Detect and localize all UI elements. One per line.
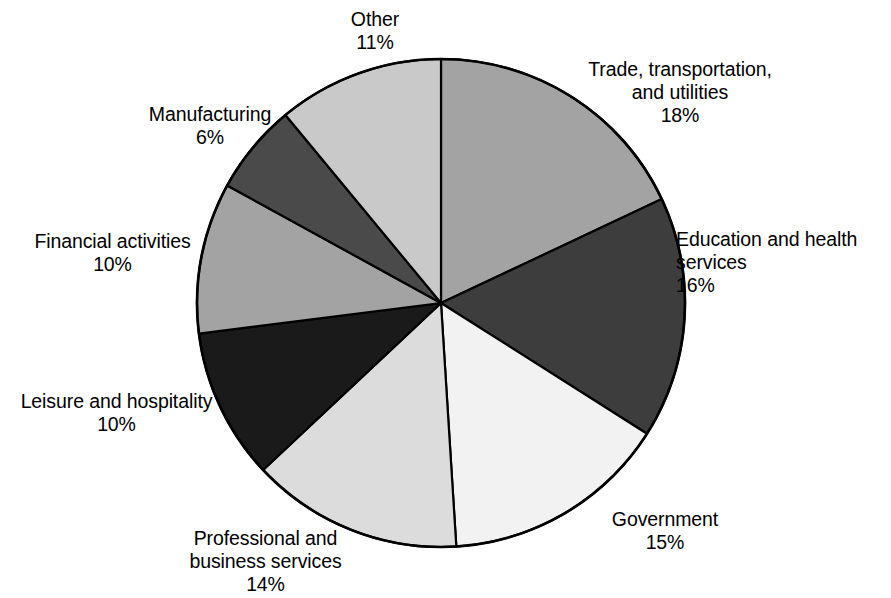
pie-chart-figure: Other 11% Trade, transportation, and uti… xyxy=(0,0,891,598)
slice-label-trade: Trade, transportation, and utilities 18% xyxy=(555,58,805,127)
slice-label-other: Other 11% xyxy=(300,8,450,54)
slice-label-leisure: Leisure and hospitality 10% xyxy=(4,390,229,436)
slice-label-manufacturing: Manufacturing 6% xyxy=(100,103,320,149)
slice-label-government: Government 15% xyxy=(570,508,760,554)
slice-label-education: Education and health services 16% xyxy=(676,228,891,297)
slice-label-professional: Professional and business services 14% xyxy=(158,527,373,596)
slice-label-financial: Financial activities 10% xyxy=(10,230,215,276)
